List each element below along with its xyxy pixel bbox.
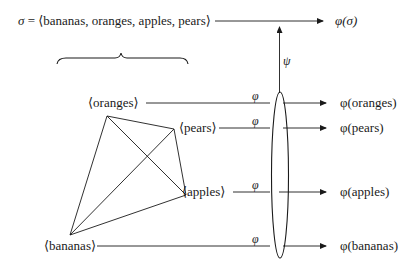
result-apples: φ(apples) <box>340 185 389 199</box>
kite-graph <box>70 116 186 235</box>
psi-label: ψ <box>283 55 290 67</box>
node-oranges: ⟨oranges⟩ <box>88 96 139 110</box>
phi-label-pears: φ <box>252 115 259 127</box>
result-oranges: φ(oranges) <box>340 96 397 110</box>
node-apples: ⟨apples⟩ <box>182 185 225 199</box>
brace <box>57 53 188 64</box>
result-bananas: φ(bananas) <box>340 239 398 253</box>
result-pears: φ(pears) <box>340 121 384 135</box>
phi-label-bananas: φ <box>252 233 259 245</box>
sigma-definition: σ = ⟨bananas, oranges, apples, pears⟩ <box>18 14 211 28</box>
phi-sigma-result: φ(σ) <box>335 14 357 28</box>
diagram-canvas <box>0 0 416 274</box>
node-bananas: ⟨bananas⟩ <box>44 239 96 253</box>
phi-label-apples: φ <box>252 179 259 191</box>
phi-label-oranges: φ <box>252 90 259 102</box>
product-ellipse <box>272 92 289 258</box>
node-pears: ⟨pears⟩ <box>179 121 217 135</box>
sigma-tuple: = ⟨bananas, oranges, apples, pears⟩ <box>24 13 210 28</box>
